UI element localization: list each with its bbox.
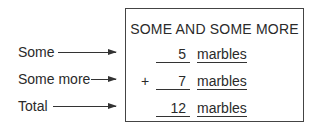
label-total: Total [18,98,48,114]
plus-operator: + [141,73,149,89]
unit-some-more: marbles [197,73,247,90]
value-some-more: 7 [156,73,190,90]
value-total: 12 [156,100,190,117]
unit-total: marbles [197,100,247,117]
problem-box: SOME AND SOME MORE 5 marbles + 7 marbles… [125,8,304,122]
value-some: 5 [156,46,190,63]
arrow-icon [53,106,116,107]
label-some-more: Some more [18,71,90,87]
box-title: SOME AND SOME MORE [126,21,303,37]
arrow-icon [58,52,116,53]
arrow-icon [91,79,116,80]
unit-some: marbles [197,46,247,63]
label-some: Some [18,44,55,60]
